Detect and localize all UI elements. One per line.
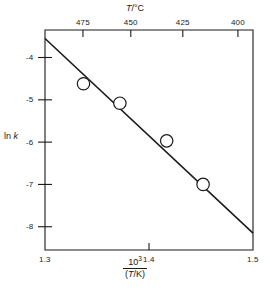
top-axis-title-units: /°C [131,3,144,13]
plot-frame [45,30,253,250]
x-axis-title-denominator: (T/K) [123,268,147,279]
arrhenius-plot-figure: T/°C ln k 103 (T/K) 4754504254001.31.41.… [0,0,270,291]
x-axis-numerator-base: 10 [128,257,138,267]
data-point [77,78,89,90]
top-axis-tick-label: 425 [176,18,190,27]
top-axis-tick-label: 475 [76,18,90,27]
y-axis-tick-label: -8 [26,222,34,231]
x-axis-numerator-exponent: 3 [138,255,142,262]
y-axis-tick-label: -6 [26,138,34,147]
y-axis-tick-label: -4 [26,53,34,62]
y-axis-title: ln k [4,131,18,141]
bottom-axis-tick-label: 1.3 [39,255,51,264]
top-axis-ticks [83,30,238,37]
top-axis-tick-label: 450 [124,18,138,27]
y-axis-tick-label: -7 [26,180,34,189]
best-fit-line [45,38,253,233]
y-axis-title-prefix: ln [4,131,14,141]
top-axis-title: T/°C [0,3,270,13]
bottom-axis-tick-label: 1.4 [143,255,155,264]
y-axis-tick-label: -5 [26,95,34,104]
data-point [197,178,209,190]
bottom-axis-tick-label: 1.5 [247,255,259,264]
data-point [114,97,126,109]
plot-canvas [0,0,270,291]
top-axis-tick-label: 400 [231,18,245,27]
y-axis-title-variable: k [14,131,19,141]
data-point [160,135,172,147]
denominator-rest: /K) [133,269,145,279]
